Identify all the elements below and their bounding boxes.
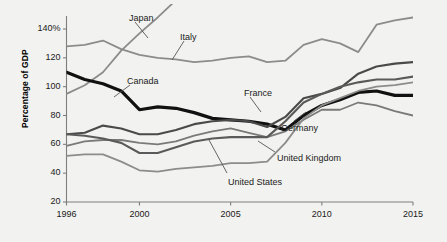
- x-axis-tick-label: 1996: [47, 209, 87, 219]
- y-axis-tick-label: 60: [50, 138, 60, 148]
- line-chart-plot: [0, 0, 447, 242]
- series-label-germany: Germany: [281, 123, 318, 133]
- series-label-canada: Canada: [127, 76, 159, 86]
- y-axis-tick-label: 140%: [37, 23, 60, 33]
- series-label-italy: Italy: [180, 32, 197, 42]
- y-axis-tick-label: 100: [45, 81, 60, 91]
- series-label-japan: Japan: [129, 13, 154, 23]
- y-axis-title: Percentage of GDP: [20, 49, 30, 128]
- series-label-united-states: United States: [228, 177, 282, 187]
- x-axis-tick-label: 2010: [302, 209, 342, 219]
- x-axis-tick-label: 2005: [211, 209, 251, 219]
- x-axis-tick-label: 2015: [393, 209, 433, 219]
- y-axis-tick-label: 80: [50, 110, 60, 120]
- x-axis-tick-label: 2000: [119, 209, 159, 219]
- y-axis-tick-label: 20: [50, 196, 60, 206]
- chart-container: 20406080100120140%19962000200520102015Ja…: [0, 0, 447, 242]
- series-label-france: France: [244, 88, 272, 98]
- y-axis-tick-label: 120: [45, 52, 60, 62]
- y-axis-tick-label: 40: [50, 167, 60, 177]
- series-label-united-kingdom: United Kingdom: [277, 153, 341, 163]
